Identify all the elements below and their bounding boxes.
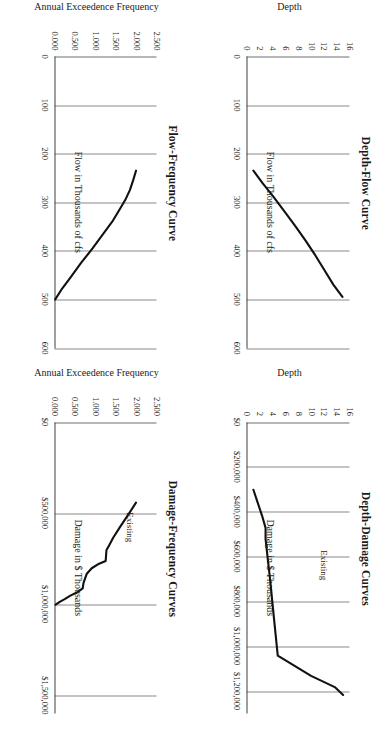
x-tick-label: $500,000 bbox=[39, 497, 49, 529]
y-tick-label: 0.500 bbox=[70, 396, 80, 415]
y-tick-label: 4 bbox=[267, 46, 277, 50]
plot-area: $0$200,000$400,000$600,000$800,000$1,000… bbox=[247, 422, 350, 714]
plot-region: $0$200,000$400,000$600,000$800,000$1,000… bbox=[247, 422, 350, 714]
panel-flow-frequency-curve: Flow-Frequency Curve 0100200300400500600… bbox=[0, 0, 193, 366]
series-curve bbox=[54, 422, 157, 714]
x-tick-label: 300 bbox=[232, 195, 242, 208]
y-tick-label: 14 bbox=[331, 407, 341, 416]
plot-region: 01002003004005006000.0000.5001.0001.5002… bbox=[54, 56, 157, 348]
y-axis-title: Depth bbox=[277, 366, 301, 377]
x-tick-label: $400,000 bbox=[232, 495, 242, 527]
chart-title: Flow-Frequency Curve bbox=[167, 0, 179, 366]
y-tick-label: 1.000 bbox=[90, 31, 100, 50]
x-axis-title: Damage in $ Thousands bbox=[265, 422, 276, 714]
x-axis-title: Damage in $ Thousands bbox=[72, 422, 83, 714]
y-tick-label: 0.000 bbox=[49, 31, 59, 50]
y-tick-label: 16 bbox=[344, 42, 354, 51]
plot-area: 01002003004005006000246810121416 bbox=[247, 56, 350, 348]
y-tick-label: 10 bbox=[306, 42, 316, 51]
y-tick-label: 8 bbox=[293, 46, 303, 50]
y-tick-label: 1.500 bbox=[111, 396, 121, 415]
y-tick-label: 2 bbox=[254, 411, 264, 415]
x-tick-label: 400 bbox=[39, 244, 49, 257]
x-tick-label: $200,000 bbox=[232, 450, 242, 482]
y-tick-label: 2.000 bbox=[131, 396, 141, 415]
panel-depth-damage-curves: Depth-Damage Curves $0$200,000$400,000$6… bbox=[193, 366, 385, 731]
x-tick-label: $1,500,000 bbox=[39, 676, 49, 714]
x-tick-label: 100 bbox=[39, 98, 49, 111]
chart-title: Damage-Frequency Curves bbox=[167, 366, 179, 731]
x-tick-label: 0 bbox=[39, 54, 49, 58]
x-tick-label: $0 bbox=[39, 417, 49, 426]
x-tick-label: $1,000,000 bbox=[39, 585, 49, 623]
y-tick-label: 16 bbox=[344, 407, 354, 416]
y-tick-label: 6 bbox=[280, 46, 290, 50]
y-tick-label: 0 bbox=[242, 46, 252, 50]
plot-region: $0$500,000$1,000,000$1,500,0000.0000.500… bbox=[54, 422, 157, 714]
x-tick-label: $1,000,000 bbox=[232, 627, 242, 665]
y-tick-label: 10 bbox=[306, 407, 316, 416]
curve-path bbox=[55, 170, 136, 299]
y-axis-title: Depth bbox=[277, 1, 301, 12]
series-curve bbox=[247, 422, 350, 714]
panel-damage-frequency-curves: Damage-Frequency Curves $0$500,000$1,000… bbox=[0, 366, 193, 731]
x-tick-label: 200 bbox=[232, 147, 242, 160]
plot-area: $0$500,000$1,000,000$1,500,0000.0000.500… bbox=[54, 422, 157, 714]
x-tick-label: $1,200,000 bbox=[232, 671, 242, 709]
y-tick-label: 1.500 bbox=[111, 31, 121, 50]
chart-title: Depth-Flow Curve bbox=[359, 0, 371, 366]
y-tick-label: 4 bbox=[267, 411, 277, 415]
x-tick-label: 300 bbox=[39, 195, 49, 208]
series-legend-label: Existing bbox=[124, 512, 134, 542]
series-curve bbox=[247, 56, 350, 348]
x-tick-label: 600 bbox=[232, 341, 242, 354]
x-tick-label: 100 bbox=[232, 98, 242, 111]
x-tick-label: 400 bbox=[232, 244, 242, 257]
y-tick-label: 0 bbox=[242, 411, 252, 415]
y-axis-title: Annual Exceedence Frequency bbox=[34, 366, 158, 377]
y-tick-label: 2 bbox=[254, 46, 264, 50]
plot-area: 01002003004005006000.0000.5001.0001.5002… bbox=[54, 56, 157, 348]
y-tick-label: 2.000 bbox=[131, 31, 141, 50]
y-axis-title: Annual Exceedence Frequency bbox=[34, 1, 158, 12]
y-tick-label: 0.000 bbox=[49, 396, 59, 415]
x-tick-label: $800,000 bbox=[232, 585, 242, 617]
y-tick-label: 6 bbox=[280, 411, 290, 415]
chart-grid: Depth-Flow Curve 01002003004005006000246… bbox=[0, 0, 385, 731]
plot-region: 01002003004005006000246810121416 Flow in… bbox=[247, 56, 350, 348]
y-tick-label: 1.000 bbox=[90, 396, 100, 415]
x-tick-label: 500 bbox=[39, 293, 49, 306]
x-axis-title: Flow in Thousands of cfs bbox=[72, 56, 83, 348]
y-tick-label: 12 bbox=[318, 42, 328, 51]
series-legend-label: Existing bbox=[319, 550, 329, 580]
series-curve bbox=[54, 56, 157, 348]
x-tick-label: $600,000 bbox=[232, 540, 242, 572]
x-tick-label: $0 bbox=[232, 417, 242, 426]
y-tick-label: 2.500 bbox=[152, 31, 162, 50]
y-tick-label: 12 bbox=[318, 407, 328, 416]
x-tick-label: 600 bbox=[39, 341, 49, 354]
y-tick-label: 8 bbox=[293, 411, 303, 415]
y-tick-label: 0.500 bbox=[70, 31, 80, 50]
panel-depth-flow-curve: Depth-Flow Curve 01002003004005006000246… bbox=[193, 0, 385, 366]
x-tick-label: 200 bbox=[39, 147, 49, 160]
y-tick-label: 14 bbox=[331, 42, 341, 51]
figure-canvas: Depth-Flow Curve 01002003004005006000246… bbox=[0, 0, 385, 731]
chart-title: Depth-Damage Curves bbox=[359, 366, 371, 731]
x-tick-label: 0 bbox=[232, 54, 242, 58]
x-axis-title: Flow in Thousands of cfs bbox=[265, 56, 276, 348]
x-tick-label: 500 bbox=[232, 293, 242, 306]
y-tick-label: 2.500 bbox=[152, 396, 162, 415]
